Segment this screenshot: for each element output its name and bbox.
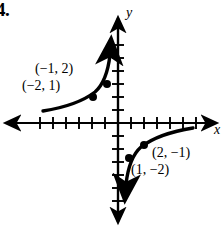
point-label-1-neg2: (1, −2) (131, 163, 169, 177)
point-label-neg2-1: (−2, 1) (22, 79, 60, 93)
marked-point-neg1-2 (103, 80, 111, 88)
graph-figure: 4. y x (−1, 2) (−2, 1) (2, −1) (1, −2) (0, 0, 224, 230)
point-label-neg1-2: (−1, 2) (35, 62, 73, 76)
coordinate-plane-svg (0, 0, 224, 230)
marked-point-1-neg2 (125, 154, 133, 162)
marked-point-neg2-1 (89, 93, 97, 101)
y-axis-label: y (126, 6, 132, 20)
problem-number-label: 4. (0, 0, 9, 19)
marked-point-2-neg1 (140, 141, 148, 149)
x-axis-label: x (214, 123, 220, 137)
point-label-2-neg1: (2, −1) (152, 146, 190, 160)
